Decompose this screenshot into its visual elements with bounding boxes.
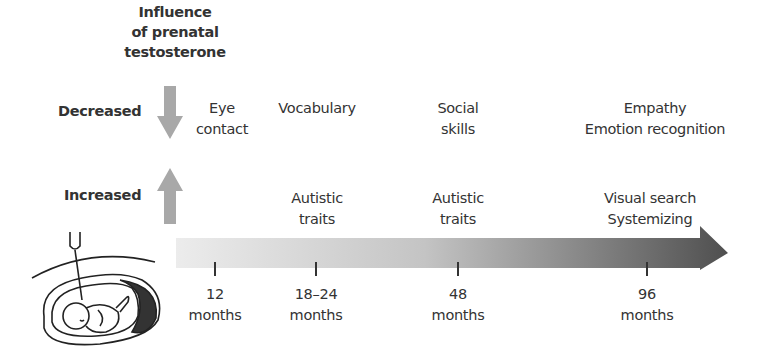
timeline-arrow-icon xyxy=(176,224,732,272)
item-line: Autistic xyxy=(418,188,498,209)
tick-12 xyxy=(214,262,216,276)
tick-unit: months xyxy=(175,305,255,326)
tick-value: 18–24 xyxy=(276,284,356,305)
tick-label-12: 12 months xyxy=(175,284,255,326)
tick-label-18-24: 18–24 months xyxy=(276,284,356,326)
tick-96 xyxy=(646,262,648,276)
down-arrow-icon xyxy=(156,86,184,140)
diagram-title: Influence of prenatal testosterone xyxy=(120,2,230,62)
tick-18-24 xyxy=(315,262,317,276)
item-line: skills xyxy=(418,119,498,140)
title-line: Influence xyxy=(120,2,230,22)
decreased-item-eye-contact: Eye contact xyxy=(182,98,262,140)
decreased-label: Decreased xyxy=(58,103,141,119)
item-line: Vocabulary xyxy=(262,98,372,119)
item-line: Emotion recognition xyxy=(570,119,740,140)
item-line: Visual search xyxy=(585,188,715,209)
item-line: Autistic xyxy=(277,188,357,209)
item-line: Social xyxy=(418,98,498,119)
tick-unit: months xyxy=(607,305,687,326)
item-line: Empathy xyxy=(570,98,740,119)
title-line: testosterone xyxy=(120,42,230,62)
tick-value: 48 xyxy=(418,284,498,305)
tick-unit: months xyxy=(276,305,356,326)
tick-unit: months xyxy=(418,305,498,326)
tick-label-96: 96 months xyxy=(607,284,687,326)
item-line: Eye xyxy=(182,98,262,119)
increased-label: Increased xyxy=(64,187,141,203)
decreased-item-vocabulary: Vocabulary xyxy=(262,98,372,119)
up-arrow-icon xyxy=(156,168,184,224)
decreased-item-empathy: Empathy Emotion recognition xyxy=(570,98,740,140)
tick-value: 12 xyxy=(175,284,255,305)
tick-48 xyxy=(457,262,459,276)
title-line: of prenatal xyxy=(120,22,230,42)
tick-label-48: 48 months xyxy=(418,284,498,326)
fetus-amniocentesis-icon xyxy=(20,228,170,348)
tick-value: 96 xyxy=(607,284,687,305)
decreased-item-social-skills: Social skills xyxy=(418,98,498,140)
item-line: contact xyxy=(182,119,262,140)
